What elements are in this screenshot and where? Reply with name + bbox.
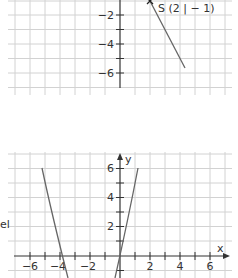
- coordinate-figures: −2 −4 −6 S (2 | − 1): [0, 0, 238, 278]
- top-y-tick-label: −6: [98, 67, 114, 80]
- x-tick-label: 4: [177, 260, 184, 273]
- side-text: el: [0, 218, 10, 231]
- x-axis-label: x: [217, 242, 224, 255]
- top-graph: −2 −4 −6 S (2 | − 1): [8, 0, 232, 95]
- point-s-label: S (2 | − 1): [158, 2, 214, 15]
- x-tick-label: −2: [80, 260, 96, 273]
- top-y-tick-label: −2: [98, 9, 114, 22]
- x-tick-label: 6: [207, 260, 214, 273]
- y-tick-label: 6: [107, 162, 114, 175]
- y-axis-label: y: [125, 153, 132, 166]
- x-tick-label: −6: [22, 260, 38, 273]
- x-tick-label: 2: [147, 260, 154, 273]
- y-tick-label: 2: [107, 220, 114, 233]
- top-y-tick-label: −4: [98, 38, 114, 51]
- y-tick-label: 4: [107, 191, 114, 204]
- bottom-graph: −6 −4 −2 2 4 6 6 4 2 y x: [8, 152, 232, 278]
- x-axis-arrow-icon: [223, 253, 230, 259]
